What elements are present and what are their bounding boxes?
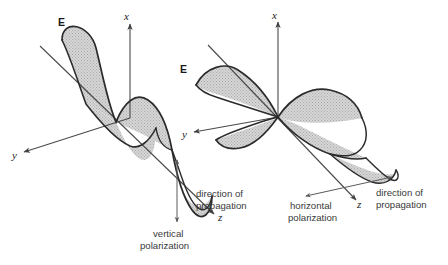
left-x-axis-label: x (123, 10, 129, 22)
right-polarization-label-line1: horizontal (290, 200, 332, 211)
left-polarization-label-line1: vertical (153, 228, 183, 239)
right-z-axis-label: z (356, 198, 362, 210)
left-direction-label-line2: propagation (196, 200, 247, 211)
right-polarization-label-line2: polarization (288, 212, 337, 223)
left-y-axis-label: y (11, 149, 17, 161)
right-direction-label-line1: direction of (376, 187, 423, 198)
right-direction-label-line2: propagation (376, 199, 427, 210)
polarization-figure: E x y z direction of propagation vertica… (0, 0, 448, 265)
left-direction-label-line1: direction of (196, 188, 243, 199)
left-e-label: E (58, 16, 65, 28)
left-z-axis-label: z (217, 211, 223, 223)
right-y-axis-label: y (181, 128, 187, 140)
right-e-label: E (180, 63, 187, 75)
left-polarization-label-line2: polarization (140, 240, 189, 251)
right-x-axis-label: x (271, 9, 277, 21)
